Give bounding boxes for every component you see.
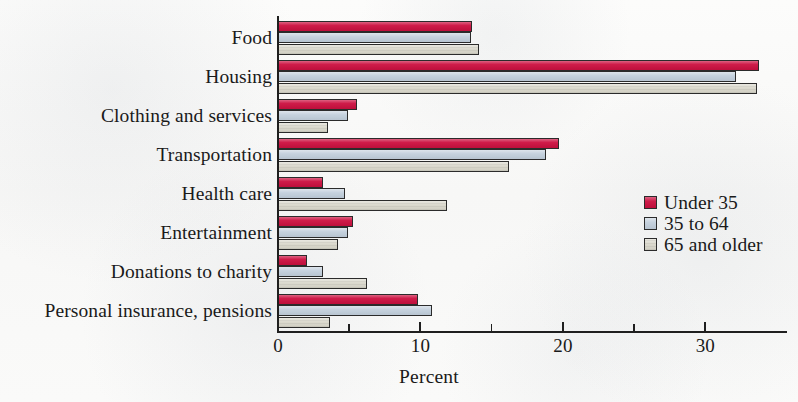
legend-swatch-icon (644, 238, 657, 251)
bar (277, 161, 509, 172)
legend-item: 35 to 64 (644, 213, 794, 234)
bar-group (277, 294, 787, 328)
bar (277, 227, 348, 238)
legend-item: Under 35 (644, 192, 794, 213)
x-axis-tick (419, 322, 421, 332)
x-axis-title: Percent (0, 366, 798, 388)
x-axis-minor-tick (633, 324, 635, 332)
bar (277, 71, 736, 82)
bar (277, 44, 479, 55)
bar (277, 60, 759, 71)
x-axis-line (277, 331, 787, 333)
bar (277, 294, 418, 305)
category-label: Transportation (156, 145, 272, 165)
bar (277, 188, 345, 199)
horizontal-bar-chart: FoodHousingClothing and servicesTranspor… (0, 0, 798, 402)
x-axis-minor-tick (491, 324, 493, 332)
bar-group (277, 60, 787, 94)
bar-group (277, 255, 787, 289)
x-axis-tick-label: 0 (273, 336, 283, 355)
bar (277, 138, 559, 149)
x-axis-title-text: Percent (399, 366, 459, 387)
bar-group (277, 138, 787, 172)
category-label: Health care (182, 184, 272, 204)
x-axis-tick-label: 10 (411, 336, 430, 355)
legend-item: 65 and older (644, 234, 794, 255)
legend-label: 35 to 64 (664, 214, 729, 234)
category-label: Entertainment (160, 223, 272, 243)
legend-swatch-icon (644, 217, 657, 230)
bar (277, 216, 353, 227)
category-label: Personal insurance, pensions (44, 301, 272, 321)
x-axis-tick-label: 20 (553, 336, 572, 355)
legend-swatch-icon (644, 196, 657, 209)
bar (277, 200, 447, 211)
legend-label: Under 35 (664, 193, 738, 213)
legend: Under 3535 to 6465 and older (644, 192, 794, 255)
bar (277, 266, 323, 277)
bar (277, 83, 757, 94)
bar (277, 21, 472, 32)
bar (277, 149, 546, 160)
category-label: Donations to charity (111, 262, 272, 282)
bar (277, 99, 357, 110)
bar (277, 305, 432, 316)
x-axis-tick (277, 322, 279, 332)
bar (277, 122, 328, 133)
bar (277, 239, 338, 250)
category-label: Food (232, 28, 273, 48)
bar-group (277, 99, 787, 133)
bar (277, 32, 471, 43)
x-axis-tick (562, 322, 564, 332)
bar (277, 317, 330, 328)
plot-area (277, 18, 787, 330)
category-axis-labels: FoodHousingClothing and servicesTranspor… (0, 0, 272, 402)
x-axis-tick-label: 30 (696, 336, 715, 355)
bar-group (277, 21, 787, 55)
y-axis-line (277, 16, 279, 332)
legend-label: 65 and older (664, 235, 763, 255)
category-label: Housing (205, 67, 272, 87)
bar (277, 255, 307, 266)
bar (277, 110, 348, 121)
bar (277, 177, 323, 188)
x-axis-minor-tick (348, 324, 350, 332)
category-label: Clothing and services (101, 106, 272, 126)
x-axis-tick (704, 322, 706, 332)
bar (277, 278, 367, 289)
